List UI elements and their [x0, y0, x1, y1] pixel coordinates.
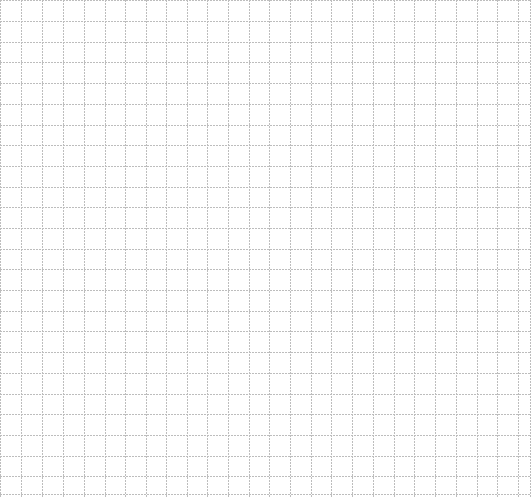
horizontal-grid-lines	[0, 1, 531, 495]
graph-paper-canvas	[0, 0, 531, 497]
grid	[0, 0, 531, 497]
